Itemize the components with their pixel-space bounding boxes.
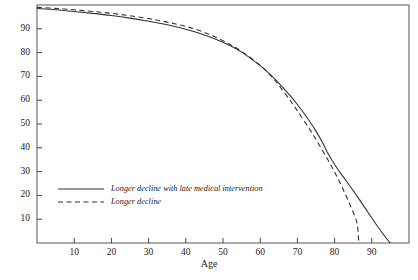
y-tick-label: 50 bbox=[4, 118, 30, 128]
x-axis-label: Age bbox=[185, 258, 233, 269]
x-tick-label: 70 bbox=[283, 247, 311, 257]
y-tick-label: 70 bbox=[4, 70, 30, 80]
series-line-solid bbox=[37, 9, 390, 243]
x-tick-label: 20 bbox=[97, 247, 125, 257]
y-tick-label: 10 bbox=[4, 213, 30, 223]
legend-label-1: Longer decline bbox=[111, 197, 161, 206]
x-tick-label: 80 bbox=[321, 247, 349, 257]
y-tick-label: 80 bbox=[4, 47, 30, 57]
x-tick-label: 10 bbox=[60, 247, 88, 257]
x-tick-label: 50 bbox=[209, 247, 237, 257]
x-tick-label: 30 bbox=[135, 247, 163, 257]
x-tick-label: 90 bbox=[358, 247, 386, 257]
plot-area bbox=[0, 0, 418, 280]
series-line-dashed bbox=[37, 7, 359, 243]
y-tick-label: 60 bbox=[4, 94, 30, 104]
y-tick-label: 40 bbox=[4, 142, 30, 152]
chart-container: Longer decline with late medical interve… bbox=[0, 0, 418, 280]
x-tick-label: 40 bbox=[172, 247, 200, 257]
y-tick-label: 20 bbox=[4, 189, 30, 199]
y-tick-label: 90 bbox=[4, 23, 30, 33]
y-axis-ticks bbox=[37, 29, 42, 219]
x-axis-ticks bbox=[74, 238, 372, 243]
x-tick-label: 60 bbox=[246, 247, 274, 257]
legend-label-0: Longer decline with late medical interve… bbox=[111, 184, 263, 193]
y-tick-label: 30 bbox=[4, 166, 30, 176]
